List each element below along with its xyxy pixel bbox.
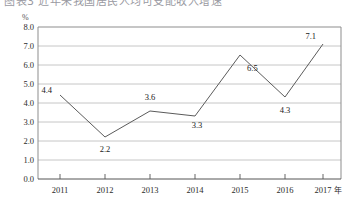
y-tick-label: 0.0	[23, 174, 34, 184]
y-tick-label: 1.0	[23, 155, 34, 165]
gridlines	[38, 27, 341, 160]
x-tick-label: 2015	[232, 185, 249, 195]
y-tick-label: 5.0	[23, 79, 34, 89]
chart-plot-area: 8.0 7.0 6.0 5.0 4.0 3.0 2.0 1.0 0.0 2011…	[0, 0, 351, 213]
x-tick-label: 2012	[97, 185, 114, 195]
data-point-labels: 4.4 2.2 3.6 3.3 6.5 4.3 7.1	[41, 31, 316, 154]
y-tick-label: 7.0	[23, 41, 34, 51]
data-label: 3.6	[145, 92, 156, 102]
x-tick-label: 2014	[187, 185, 205, 195]
x-axis-tick-marks	[60, 174, 323, 179]
x-tick-label: 2013	[142, 185, 159, 195]
y-tick-label: 2.0	[23, 136, 34, 146]
data-label: 3.3	[192, 120, 203, 130]
y-tick-label: 6.0	[23, 60, 34, 70]
y-tick-label: 8.0	[23, 22, 34, 32]
x-tick-label: 2016	[277, 185, 294, 195]
y-axis-tick-labels: 8.0 7.0 6.0 5.0 4.0 3.0 2.0 1.0 0.0	[23, 22, 34, 184]
x-tick-label: 2017	[315, 185, 332, 195]
x-axis-tick-labels: 2011 2012 2013 2014 2015 2016 2017 年	[52, 185, 342, 195]
data-label: 7.1	[305, 31, 316, 41]
data-label: 6.5	[247, 63, 258, 73]
x-axis-unit-label: 年	[334, 185, 342, 195]
y-tick-label: 4.0	[23, 98, 34, 108]
data-label: 4.3	[280, 105, 291, 115]
data-label: 2.2	[100, 144, 111, 154]
data-label: 4.4	[41, 85, 52, 95]
x-tick-label: 2011	[52, 185, 69, 195]
y-tick-label: 3.0	[23, 117, 34, 127]
chart-figure: 图表3 近年来我国居民人均可支配收入增速 % 8.0 7.0 6.0 5.0 4…	[0, 0, 351, 213]
